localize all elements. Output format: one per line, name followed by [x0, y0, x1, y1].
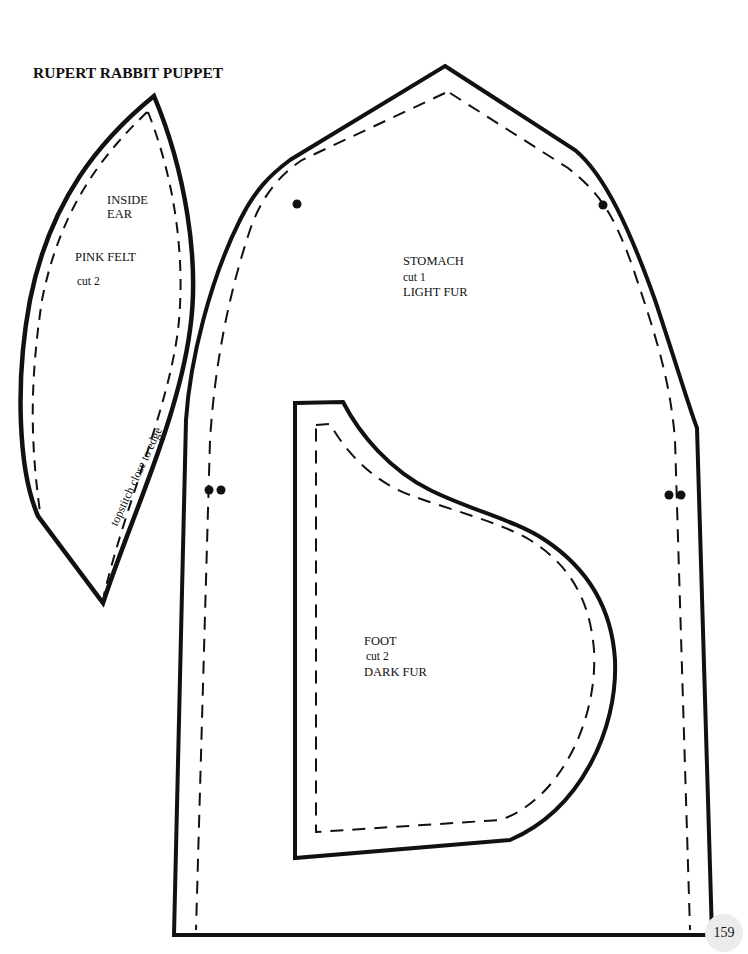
foot-name: FOOT: [364, 634, 397, 648]
stomach-name: STOMACH: [403, 254, 464, 268]
stomach-cut-line: [174, 66, 712, 935]
stomach-stitch-line: [196, 93, 690, 930]
foot-material: DARK FUR: [364, 665, 427, 679]
foot-stitch-line: [316, 424, 594, 832]
stomach-piece: [174, 66, 712, 935]
match-dot-right-1: [665, 491, 674, 500]
page-number: 159: [705, 914, 743, 952]
ear-material: PINK FELT: [75, 250, 136, 264]
match-dot-left-2: [217, 486, 226, 495]
foot-cut-line: [295, 402, 615, 858]
match-dot-right-2: [677, 491, 686, 500]
foot-cut-count: cut 2: [366, 649, 389, 663]
foot-piece: [295, 402, 615, 858]
match-dot-top-right: [599, 201, 608, 210]
inside-ear-stitch-line: [33, 112, 181, 595]
match-dot-left-1: [205, 486, 214, 495]
stomach-cut-count: cut 1: [403, 270, 426, 284]
stomach-material: LIGHT FUR: [403, 285, 468, 299]
match-dot-top-left: [293, 200, 302, 209]
pattern-drawing: [0, 0, 748, 954]
ear-cut-count: cut 2: [77, 274, 100, 288]
inside-ear-piece: [21, 96, 194, 603]
ear-name-line2: EAR: [107, 207, 132, 221]
ear-name-line1: INSIDE: [107, 193, 148, 207]
